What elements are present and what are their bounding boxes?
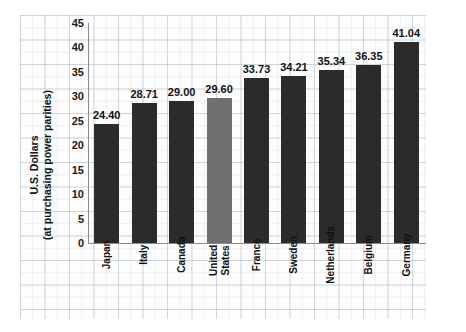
- bar[interactable]: [94, 124, 119, 243]
- bar-group[interactable]: 33.73: [244, 23, 269, 243]
- bar-value-label: 36.35: [355, 51, 383, 62]
- y-tick-label: 45: [38, 18, 84, 29]
- bar-value-label: 35.34: [318, 56, 346, 67]
- y-tick-label: 25: [38, 115, 84, 126]
- bar-value-label: 29.60: [205, 84, 233, 95]
- bar[interactable]: [394, 42, 419, 243]
- bar[interactable]: [132, 103, 157, 243]
- bar-group[interactable]: 29.60: [207, 23, 232, 243]
- bar-group[interactable]: 34.21: [281, 23, 306, 243]
- bar-group[interactable]: 29.00: [169, 23, 194, 243]
- y-tick-label: 20: [38, 140, 84, 151]
- bar[interactable]: [207, 98, 232, 243]
- bar-value-label: 41.04: [393, 28, 421, 39]
- bar-value-label: 28.71: [130, 89, 158, 100]
- bar[interactable]: [319, 70, 344, 243]
- y-tick-label: 40: [38, 42, 84, 53]
- chart-figure: U.S. Dollars (at purchasing power pariti…: [0, 0, 466, 332]
- bar[interactable]: [356, 65, 381, 243]
- y-tick-label: 10: [38, 189, 84, 200]
- bar-value-label: 34.21: [280, 62, 308, 73]
- bar[interactable]: [281, 76, 306, 243]
- y-tick-label: 0: [38, 238, 84, 249]
- bar[interactable]: [244, 78, 269, 243]
- bar[interactable]: [169, 101, 194, 243]
- plot-area: 24.4028.7129.0029.6033.7334.2135.3436.35…: [88, 23, 425, 243]
- bar-group[interactable]: 24.40: [94, 23, 119, 243]
- y-tick-label: 35: [38, 66, 84, 77]
- y-tick-label: 15: [38, 164, 84, 175]
- bar-group[interactable]: 35.34: [319, 23, 344, 243]
- bar-value-label: 24.40: [93, 110, 121, 121]
- bar-value-label: 29.00: [168, 87, 196, 98]
- bar-value-label: 33.73: [243, 64, 271, 75]
- bar-group[interactable]: 36.35: [356, 23, 381, 243]
- y-tick-label: 30: [38, 91, 84, 102]
- bar-group[interactable]: 28.71: [132, 23, 157, 243]
- y-tick-label: 5: [38, 213, 84, 224]
- bar-group[interactable]: 41.04: [394, 23, 419, 243]
- x-tick-label: Germany: [376, 249, 436, 311]
- y-axis-tick-labels: 454035302520151050: [34, 23, 84, 243]
